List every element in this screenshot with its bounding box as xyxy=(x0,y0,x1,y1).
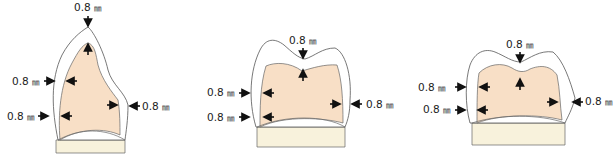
anterior-tooth-diagram: 0.8 ㎜ 0.8 ㎜ 0.8 ㎜ 0.8 ㎜ xyxy=(7,1,170,153)
label-left-lower: 0.8 ㎜ xyxy=(207,111,235,123)
prepared-core xyxy=(477,65,562,123)
molar-tooth-diagram: 0.8 ㎜ 0.8 ㎜ 0.8 ㎜ 0.8 ㎜ xyxy=(418,38,613,145)
label-left-upper: 0.8 ㎜ xyxy=(12,75,40,87)
label-left-upper: 0.8 ㎜ xyxy=(207,86,235,98)
tooth-base xyxy=(56,140,125,153)
label-top: 0.8 ㎜ xyxy=(289,34,317,46)
label-top: 0.8 ㎜ xyxy=(506,38,534,50)
label-left-upper: 0.8 ㎜ xyxy=(418,81,446,93)
label-right: 0.8 ㎜ xyxy=(585,95,613,107)
label-top: 0.8 ㎜ xyxy=(74,1,102,13)
tooth-base xyxy=(257,127,345,147)
label-left-lower: 0.8 ㎜ xyxy=(423,103,451,115)
label-right: 0.8 ㎜ xyxy=(142,100,170,112)
tooth-base xyxy=(472,123,565,145)
label-left-lower: 0.8 ㎜ xyxy=(7,110,35,122)
premolar-tooth-diagram: 0.8 ㎜ 0.8 ㎜ 0.8 ㎜ 0.8 ㎜ xyxy=(207,34,394,147)
tooth-reduction-diagrams: 0.8 ㎜ 0.8 ㎜ 0.8 ㎜ 0.8 ㎜ 0.8 ㎜ 0.8 ㎜ 0.8 … xyxy=(0,0,615,158)
label-right: 0.8 ㎜ xyxy=(366,98,394,110)
